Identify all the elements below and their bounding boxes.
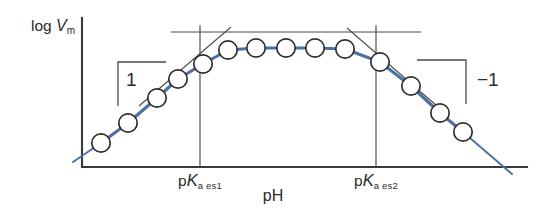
data-point-marker[interactable]: [371, 53, 389, 71]
tick2-prefix: p: [354, 172, 363, 189]
data-point-marker[interactable]: [169, 70, 187, 88]
data-point-marker[interactable]: [148, 89, 166, 107]
data-point-marker[interactable]: [306, 39, 324, 57]
x-tick-label-pka-es2: pKa es2: [354, 172, 398, 191]
x-axis-label: pH: [263, 188, 283, 204]
tick1-prefix: p: [178, 172, 187, 189]
data-point-marker[interactable]: [119, 114, 137, 132]
data-point-marker[interactable]: [454, 123, 472, 141]
data-point-marker[interactable]: [431, 104, 449, 122]
data-point-marker[interactable]: [194, 55, 212, 73]
tick2-subscript: a es2: [374, 180, 398, 191]
data-point-marker[interactable]: [219, 41, 237, 59]
slope-label-positive: 1: [126, 70, 137, 89]
tick1-subscript: a es1: [198, 180, 222, 191]
ph-rate-profile-figure: log Vm pKa es1 pKa es2 pH 1 −1: [0, 0, 535, 219]
tick1-symbol: K: [187, 171, 198, 189]
y-axis-label-subscript: m: [67, 25, 75, 36]
slope-label-negative: −1: [477, 70, 499, 89]
data-point-marker[interactable]: [277, 39, 295, 57]
data-point-marker[interactable]: [247, 39, 265, 57]
y-axis-label-prefix: log: [31, 17, 56, 34]
tick2-symbol: K: [363, 171, 374, 189]
asymptote-descending: [347, 28, 437, 106]
data-point-marker[interactable]: [92, 134, 110, 152]
y-axis-label: log Vm: [31, 18, 75, 36]
data-point-marker[interactable]: [336, 40, 354, 58]
y-axis-label-symbol: V: [56, 17, 67, 34]
x-tick-label-pka-es1: pKa es1: [178, 172, 222, 191]
data-point-marker[interactable]: [402, 77, 420, 95]
